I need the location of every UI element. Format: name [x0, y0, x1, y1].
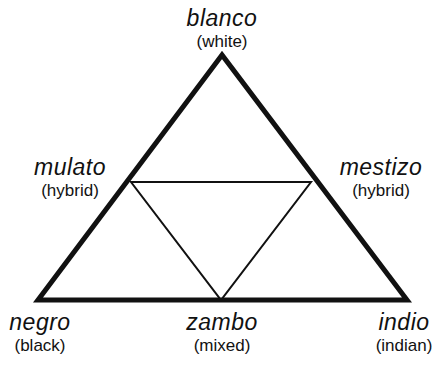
- node-negro: negro (black): [5, 311, 75, 354]
- node-blanco: blanco (white): [172, 7, 272, 50]
- node-gloss: (indian): [364, 337, 444, 354]
- node-gloss: (mixed): [172, 337, 272, 354]
- node-gloss: (hybrid): [326, 182, 436, 199]
- node-term: blanco: [172, 7, 272, 30]
- node-zambo: zambo (mixed): [172, 311, 272, 354]
- inner-triangle: [131, 182, 311, 300]
- node-term: zambo: [172, 311, 272, 334]
- node-term: mestizo: [326, 156, 436, 179]
- node-indio: indio (indian): [364, 311, 444, 354]
- node-term: indio: [364, 311, 444, 334]
- node-term: negro: [5, 311, 75, 334]
- node-mestizo: mestizo (hybrid): [326, 156, 436, 199]
- node-mulato: mulato (hybrid): [20, 156, 120, 199]
- node-gloss: (hybrid): [20, 182, 120, 199]
- node-gloss: (white): [172, 33, 272, 50]
- node-term: mulato: [20, 156, 120, 179]
- node-gloss: (black): [5, 337, 75, 354]
